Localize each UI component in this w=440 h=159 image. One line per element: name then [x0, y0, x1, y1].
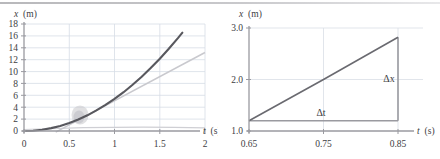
figure-container: 18 16 14 12 10 8 6 4 2 0 0 0.5 1 1.5 2: [0, 0, 440, 159]
delta-t-annotation: Δt: [316, 107, 325, 118]
right-x-axis-unit: (s): [425, 126, 435, 137]
right-ytick-1p0: 1.0: [231, 126, 243, 136]
left-ytick-0: 0: [13, 126, 18, 136]
left-ytick-12: 12: [9, 55, 19, 65]
right-chart-y-axis-title: x (m): [238, 9, 262, 20]
right-chart-svg: 3.0 2.0 1.0 0.65 0.75 0.85 x (m) t (s) Δ…: [218, 0, 440, 159]
right-chart-x-tick-labels: 0.65 0.75 0.85: [241, 139, 407, 149]
right-y-axis-unit: (m): [248, 9, 262, 20]
left-ytick-6: 6: [13, 91, 18, 101]
left-chart-svg: 18 16 14 12 10 8 6 4 2 0 0 0.5 1 1.5 2: [0, 0, 218, 159]
left-ytick-2: 2: [13, 114, 18, 124]
delta-x-annotation: Δx: [383, 73, 394, 84]
left-xtick-0p5: 0.5: [63, 139, 75, 149]
left-xtick-1p5: 1.5: [154, 139, 166, 149]
right-xtick-0p75: 0.75: [315, 139, 332, 149]
left-ytick-18: 18: [9, 19, 19, 29]
left-xtick-1: 1: [112, 139, 117, 149]
right-xtick-0p85: 0.85: [390, 139, 407, 149]
right-x-axis-variable: t: [417, 126, 420, 136]
left-y-axis-variable: x: [13, 9, 19, 19]
right-y-axis-variable: x: [238, 9, 244, 19]
right-chart-x-axis-title: t (s): [417, 126, 435, 137]
left-chart-y-axis-title: x (m): [13, 9, 37, 20]
left-xtick-2: 2: [203, 139, 208, 149]
left-x-axis-variable: t: [203, 126, 206, 136]
left-ytick-8: 8: [13, 79, 18, 89]
left-chart-x-axis-title: t (s): [203, 126, 218, 137]
left-y-axis-unit: (m): [23, 9, 37, 20]
left-ytick-10: 10: [9, 67, 19, 77]
left-chart-y-tick-labels: 18 16 14 12 10 8 6 4 2 0: [9, 19, 19, 136]
left-chart-x-tick-labels: 0 0.5 1 1.5 2: [22, 139, 208, 149]
left-ytick-4: 4: [13, 103, 18, 113]
left-xtick-0: 0: [22, 139, 27, 149]
right-ytick-2p0: 2.0: [231, 75, 243, 85]
left-ytick-16: 16: [9, 31, 19, 41]
right-chart-y-tick-labels: 3.0 2.0 1.0: [231, 23, 243, 136]
left-x-axis-unit: (s): [211, 126, 218, 137]
right-chart-panel: 3.0 2.0 1.0 0.65 0.75 0.85 x (m) t (s) Δ…: [218, 0, 440, 159]
right-xtick-0p65: 0.65: [241, 139, 258, 149]
left-chart-panel: 18 16 14 12 10 8 6 4 2 0 0 0.5 1 1.5 2: [0, 0, 218, 159]
left-ytick-14: 14: [9, 43, 19, 53]
right-ytick-3p0: 3.0: [231, 23, 243, 33]
